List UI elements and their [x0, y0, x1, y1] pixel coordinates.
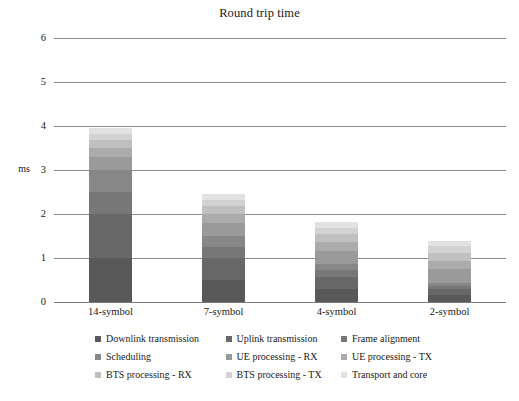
legend-swatch-icon [95, 336, 101, 342]
legend-swatch-icon [341, 336, 347, 342]
bar-segment[interactable] [89, 148, 132, 157]
y-tick-label: 6 [20, 33, 46, 44]
legend-item[interactable]: BTS processing - RX [95, 370, 226, 380]
legend-label: Scheduling [106, 352, 151, 362]
y-tick-label: 5 [20, 77, 46, 88]
legend-item[interactable]: BTS processing - TX [226, 370, 341, 380]
bar-segment[interactable] [428, 253, 471, 261]
bar-segment[interactable] [315, 277, 358, 290]
legend-swatch-icon [95, 354, 101, 360]
bar-segment[interactable] [202, 280, 245, 302]
bar-segment[interactable] [89, 258, 132, 302]
legend-swatch-icon [341, 354, 347, 360]
legend-label: BTS processing - RX [106, 370, 192, 380]
bar-stack[interactable] [202, 194, 245, 302]
legend-swatch-icon [226, 336, 232, 342]
legend-swatch-icon [226, 372, 232, 378]
legend-label: Frame alignment [352, 334, 420, 344]
legend-swatch-icon [95, 372, 101, 378]
bar-group [202, 38, 245, 302]
bar-segment[interactable] [428, 261, 471, 270]
bar-segment[interactable] [89, 192, 132, 214]
bar-segment[interactable] [315, 234, 358, 242]
bar-stack[interactable] [89, 128, 132, 302]
legend-swatch-icon [341, 372, 347, 378]
legend-item[interactable]: Frame alignment [341, 334, 445, 344]
bar-segment[interactable] [428, 269, 471, 282]
bar-segment[interactable] [315, 251, 358, 264]
bar-segment[interactable] [89, 134, 132, 141]
bar-segment[interactable] [202, 247, 245, 258]
bar-group [89, 38, 132, 302]
bar-segment[interactable] [202, 236, 245, 247]
legend-swatch-icon [226, 354, 232, 360]
bar-segment[interactable] [89, 170, 132, 192]
x-tick-label: 2-symbol [405, 306, 495, 317]
bar-segment[interactable] [89, 157, 132, 170]
bar-segment[interactable] [202, 258, 245, 280]
bar-stack[interactable] [428, 241, 471, 302]
stacked-bar-chart: Round trip time ms 0123456 14-symbol7-sy… [0, 0, 519, 401]
bar-group [428, 38, 471, 302]
y-tick-label: 0 [20, 297, 46, 308]
legend-label: UE processing - TX [352, 352, 432, 362]
x-tick-label: 7-symbol [179, 306, 269, 317]
bar-segment[interactable] [202, 223, 245, 236]
legend-row: BTS processing - RXBTS processing - TXTr… [95, 366, 445, 384]
legend-label: Uplink transmission [237, 334, 318, 344]
legend-item[interactable]: UE processing - RX [226, 352, 341, 362]
bar-stack[interactable] [315, 222, 358, 302]
bar-segment[interactable] [428, 289, 471, 296]
y-tick-label: 3 [20, 165, 46, 176]
bar-segment[interactable] [202, 214, 245, 223]
chart-title: Round trip time [0, 6, 519, 21]
bar-segment[interactable] [315, 289, 358, 302]
bar-segment[interactable] [315, 242, 358, 251]
legend-row: Downlink transmissionUplink transmission… [95, 330, 445, 348]
bar-segment[interactable] [89, 214, 132, 258]
bar-segment[interactable] [89, 140, 132, 148]
gridline-0 [54, 302, 506, 303]
legend-row: SchedulingUE processing - RXUE processin… [95, 348, 445, 366]
legend-item[interactable]: Downlink transmission [95, 334, 226, 344]
legend-label: BTS processing - TX [237, 370, 322, 380]
legend-label: UE processing - RX [237, 352, 318, 362]
legend-item[interactable]: UE processing - TX [341, 352, 445, 362]
bar-segment[interactable] [428, 246, 471, 253]
x-tick-label: 14-symbol [66, 306, 156, 317]
bar-segment[interactable] [202, 200, 245, 207]
y-tick-label: 1 [20, 253, 46, 264]
x-axis-labels: 14-symbol7-symbol4-symbol2-symbol [54, 306, 506, 324]
bars-layer [54, 38, 506, 302]
y-tick-label: 2 [20, 209, 46, 220]
bar-segment[interactable] [315, 228, 358, 235]
bar-segment[interactable] [428, 295, 471, 302]
bar-segment[interactable] [202, 206, 245, 214]
y-tick-label: 4 [20, 121, 46, 132]
legend-item[interactable]: Scheduling [95, 352, 226, 362]
legend-item[interactable]: Transport and core [341, 370, 445, 380]
chart-legend: Downlink transmissionUplink transmission… [95, 330, 445, 384]
x-tick-label: 4-symbol [292, 306, 382, 317]
legend-label: Transport and core [352, 370, 427, 380]
legend-item[interactable]: Uplink transmission [226, 334, 341, 344]
bar-group [315, 38, 358, 302]
legend-label: Downlink transmission [106, 334, 199, 344]
